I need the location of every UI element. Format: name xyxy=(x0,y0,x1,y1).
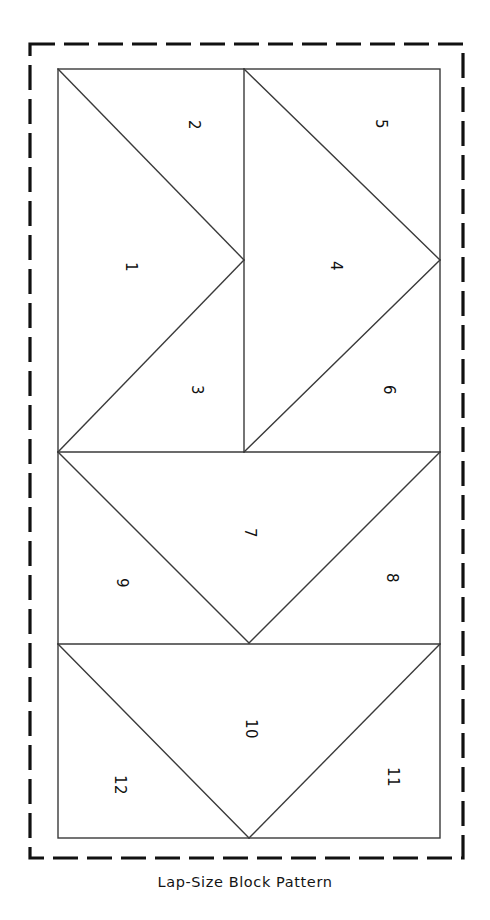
piece-number-1: 1 xyxy=(122,262,140,272)
piece-number-3: 3 xyxy=(188,385,206,395)
piece-number-9: 9 xyxy=(113,578,131,588)
pattern-diagram: 123456789101112 Lap-Size Block Pattern xyxy=(0,0,490,920)
pattern-caption: Lap-Size Block Pattern xyxy=(158,874,333,890)
paper-background xyxy=(0,0,490,920)
piece-number-4: 4 xyxy=(327,261,345,271)
piece-number-8: 8 xyxy=(383,573,401,583)
piece-number-5: 5 xyxy=(372,119,390,129)
pattern-page: 123456789101112 Lap-Size Block Pattern xyxy=(0,0,490,920)
piece-number-11: 11 xyxy=(384,767,402,787)
piece-number-2: 2 xyxy=(185,120,203,130)
piece-number-6: 6 xyxy=(380,385,398,395)
piece-number-10: 10 xyxy=(242,719,260,739)
piece-number-7: 7 xyxy=(241,528,259,538)
piece-number-12: 12 xyxy=(111,775,129,795)
